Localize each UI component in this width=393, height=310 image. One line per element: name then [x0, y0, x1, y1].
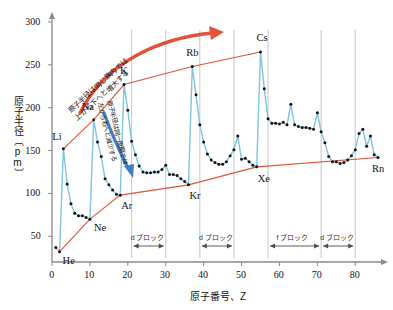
- block-range-arrows: [134, 244, 354, 249]
- y-tick-label: 50: [31, 230, 41, 241]
- x-axis-label: 原子番号、Z: [190, 288, 246, 303]
- block-guide-lines: [132, 30, 356, 258]
- x-tick-label: 50: [236, 269, 246, 280]
- y-tick-label: 100: [25, 187, 40, 198]
- y-tick-label: 300: [25, 16, 40, 27]
- element-label-he: He: [63, 255, 75, 266]
- element-label-rb: Rb: [186, 47, 198, 58]
- block-label-0: d ブロック: [131, 232, 165, 242]
- y-axis-label: 原子半径〔pm〕: [10, 96, 25, 178]
- element-label-rn: Rn: [372, 163, 384, 174]
- x-tick-label: 30: [160, 269, 170, 280]
- x-tick-label: 80: [350, 269, 360, 280]
- y-tick-label: 250: [25, 59, 40, 70]
- element-label-xe: Xe: [258, 173, 270, 184]
- x-tick-label: 70: [312, 269, 322, 280]
- element-label-ar: Ar: [121, 200, 132, 211]
- element-label-ne: Ne: [94, 222, 106, 233]
- block-label-1: d ブロック: [199, 232, 233, 242]
- element-label-li: Li: [52, 131, 61, 142]
- y-tick-label: 200: [25, 102, 40, 113]
- block-label-3: d ブロック: [320, 232, 354, 242]
- atomic-radius-chart: 原子半径〔pm〕 原子番号、Z 501001502002503000102030…: [0, 0, 393, 310]
- x-tick-label: 10: [84, 269, 94, 280]
- block-label-2: f ブロック: [277, 232, 309, 242]
- x-tick-label: 20: [122, 269, 132, 280]
- x-tick-label: 0: [49, 269, 54, 280]
- element-label-cs: Cs: [256, 32, 267, 43]
- x-tick-label: 40: [198, 269, 208, 280]
- x-tick-label: 60: [274, 269, 284, 280]
- element-label-kr: Kr: [189, 190, 200, 201]
- y-tick-label: 150: [25, 145, 40, 156]
